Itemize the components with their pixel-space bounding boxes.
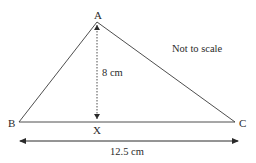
vertex-c-label: C: [239, 117, 246, 129]
height-label: 8 cm: [102, 67, 123, 78]
triangle-diagram: A B C X 8 cm 12.5 cm Not to scale: [0, 0, 256, 163]
vertex-x-label: X: [93, 124, 101, 136]
side-ab: [19, 22, 97, 122]
diagram-canvas: A B C X 8 cm 12.5 cm Not to scale: [0, 0, 256, 163]
not-to-scale-note: Not to scale: [172, 43, 222, 54]
base-label: 12.5 cm: [110, 146, 144, 157]
vertex-b-label: B: [8, 117, 15, 129]
vertex-a-label: A: [94, 9, 102, 21]
